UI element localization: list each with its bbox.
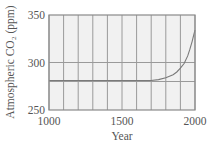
x-tick-label: 1000 (38, 115, 61, 127)
y-tick-labels: 250300350 (28, 9, 46, 116)
y-axis-title: Atmospheric CO₂ (ppm) (4, 5, 17, 118)
y-tick-label: 300 (28, 57, 46, 69)
x-tick-labels: 100015002000 (38, 115, 207, 127)
x-tick-label: 2000 (184, 115, 207, 127)
x-axis-title: Year (111, 130, 132, 142)
co2-line-chart: 250300350 100015002000 Year Atmospheric … (0, 0, 214, 151)
x-tick-label: 1500 (111, 115, 134, 127)
y-tick-label: 350 (28, 9, 46, 21)
